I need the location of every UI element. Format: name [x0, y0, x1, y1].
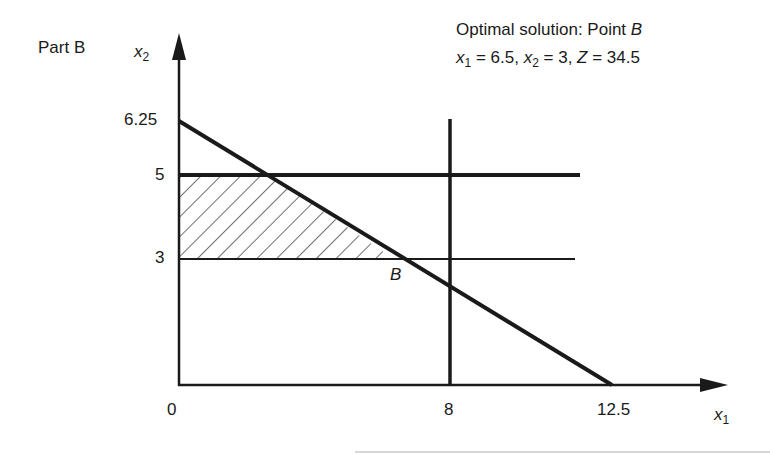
y-axis-label: x2 [134, 42, 149, 64]
tick-x-0: 0 [167, 400, 176, 420]
optimal-solution-values: x1 = 6.5, x2 = 3, Z = 34.5 [456, 48, 640, 70]
lp-graph [0, 0, 770, 454]
x-axis-label: x1 [714, 405, 729, 427]
tick-y-3: 3 [155, 248, 164, 268]
x-axis-arrow-icon [700, 378, 728, 392]
part-label: Part B [38, 38, 85, 58]
tick-y-5: 5 [155, 165, 164, 185]
y-axis-arrow-icon [172, 33, 186, 60]
point-b-label: B [390, 265, 401, 285]
tick-y-6.25: 6.25 [124, 110, 157, 130]
tick-x-12.5: 12.5 [597, 400, 630, 420]
tick-x-8: 8 [444, 400, 453, 420]
optimal-solution-title: Optimal solution: Point B [456, 20, 642, 40]
